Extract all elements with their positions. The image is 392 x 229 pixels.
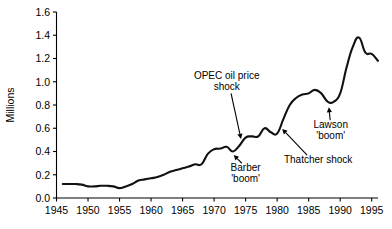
annotation-label-barber: Barber: [231, 162, 262, 173]
x-tick-label: 1970: [202, 204, 226, 216]
annotation-leader-lawson: [329, 112, 330, 120]
annotation-barber: Barber'boom': [231, 155, 262, 184]
y-tick-label: 1.2: [35, 52, 50, 64]
x-tick-label: 1945: [45, 204, 69, 216]
x-tick-label: 1975: [234, 204, 258, 216]
annotation-arrowhead-lawson: [327, 107, 332, 112]
y-tick-label: 0.0: [35, 192, 50, 204]
annotation-lawson: Lawson'boom': [313, 107, 347, 141]
y-axis-title: Millions: [4, 87, 16, 122]
annotation-leader-opec: [231, 93, 240, 134]
data-series-line: [63, 37, 378, 188]
annotation-label-opec: OPEC oil price: [194, 70, 260, 81]
x-tick-label: 1950: [76, 204, 100, 216]
y-tick-label: 0.4: [35, 145, 50, 157]
annotation-leader-thatcher: [286, 133, 307, 156]
x-tick-label: 1965: [171, 204, 195, 216]
x-tick-label: 1980: [265, 204, 289, 216]
x-tick-label: 1985: [297, 204, 321, 216]
y-tick-label: 1.0: [35, 76, 50, 88]
y-tick-label: 0.8: [35, 99, 50, 111]
y-tick-label: 0.6: [35, 122, 50, 134]
x-tick-label: 1955: [108, 204, 132, 216]
annotation-label-lawson: 'boom': [316, 130, 345, 141]
chart-container: 0.00.20.40.60.81.01.21.41.61945195019551…: [0, 0, 392, 229]
annotation-label-barber: 'boom': [231, 173, 260, 184]
annotation-arrowhead-opec: [237, 133, 242, 138]
annotation-label-lawson: Lawson: [313, 119, 347, 130]
y-tick-label: 1.4: [35, 29, 50, 41]
x-tick-label: 1960: [139, 204, 163, 216]
y-tick-label: 0.2: [35, 169, 50, 181]
annotation-label-opec: shock: [214, 81, 241, 92]
x-tick-label: 1995: [360, 204, 384, 216]
x-tick-label: 1990: [328, 204, 352, 216]
line-chart: 0.00.20.40.60.81.01.21.41.61945195019551…: [0, 0, 392, 229]
annotation-opec: OPEC oil priceshock: [194, 70, 260, 138]
y-tick-label: 1.6: [35, 6, 50, 18]
annotation-label-thatcher: Thatcher shock: [284, 154, 353, 165]
